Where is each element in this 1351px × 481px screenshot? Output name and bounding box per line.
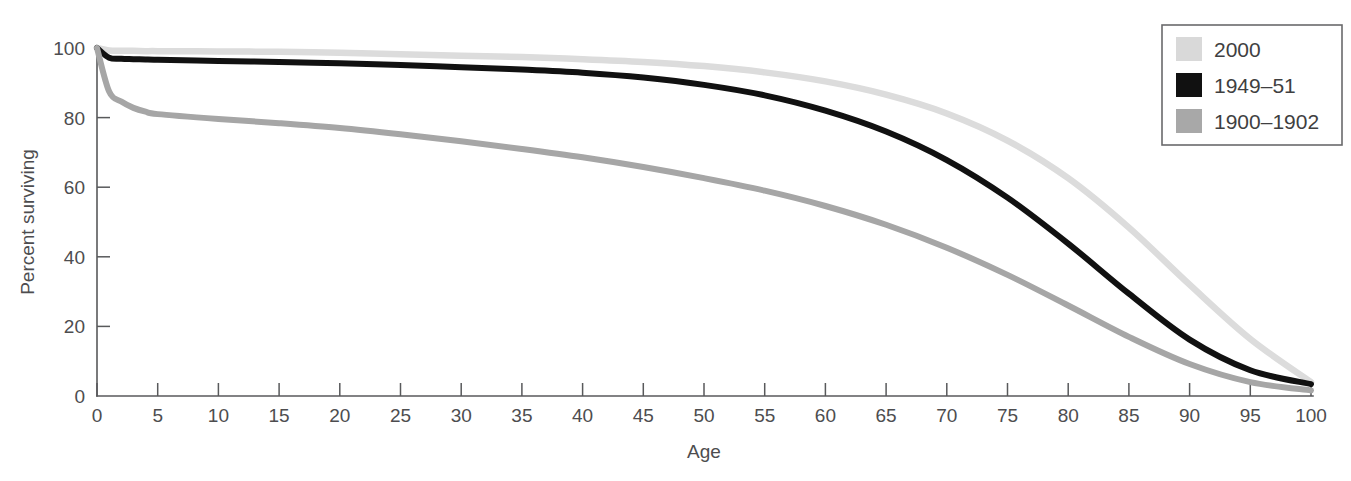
series-line-1900-1902 xyxy=(97,48,1311,390)
y-tick-label-100: 100 xyxy=(53,38,85,59)
x-tick-label-50: 50 xyxy=(693,405,714,426)
y-tick-label-20: 20 xyxy=(64,316,85,337)
x-tick-label-20: 20 xyxy=(329,405,350,426)
legend-label-0: 2000 xyxy=(1214,38,1261,61)
x-tick-label-90: 90 xyxy=(1179,405,1200,426)
data-series-group xyxy=(97,48,1311,390)
legend-swatch-1 xyxy=(1176,73,1202,97)
x-axis-ticks: 0510152025303540455055606570758085909510… xyxy=(92,383,1327,426)
x-tick-label-30: 30 xyxy=(451,405,472,426)
x-tick-label-100: 100 xyxy=(1295,405,1327,426)
series-line-2000 xyxy=(97,48,1311,382)
x-tick-label-5: 5 xyxy=(152,405,163,426)
y-tick-label-60: 60 xyxy=(64,177,85,198)
legend-swatch-0 xyxy=(1176,37,1202,61)
x-tick-label-45: 45 xyxy=(633,405,654,426)
x-tick-label-35: 35 xyxy=(511,405,532,426)
x-tick-label-40: 40 xyxy=(572,405,593,426)
x-tick-label-75: 75 xyxy=(997,405,1018,426)
survival-curve-chart: 020406080100 Percent surviving 051015202… xyxy=(0,0,1351,481)
x-tick-label-0: 0 xyxy=(92,405,103,426)
x-tick-label-15: 15 xyxy=(269,405,290,426)
y-tick-label-40: 40 xyxy=(64,247,85,268)
x-tick-label-85: 85 xyxy=(1118,405,1139,426)
x-tick-label-65: 65 xyxy=(876,405,897,426)
x-tick-label-25: 25 xyxy=(390,405,411,426)
x-tick-label-10: 10 xyxy=(208,405,229,426)
y-axis-title: Percent surviving xyxy=(17,149,38,295)
chart-legend: 20001949–511900–1902 xyxy=(1162,25,1342,145)
x-tick-label-95: 95 xyxy=(1240,405,1261,426)
x-axis-title: Age xyxy=(687,441,721,462)
y-axis-group: 020406080100 Percent surviving xyxy=(17,38,110,407)
x-tick-label-55: 55 xyxy=(754,405,775,426)
legend-label-2: 1900–1902 xyxy=(1214,110,1319,133)
y-axis-ticks: 020406080100 xyxy=(53,38,110,407)
x-tick-label-70: 70 xyxy=(936,405,957,426)
y-tick-label-80: 80 xyxy=(64,108,85,129)
chart-canvas: 020406080100 Percent surviving 051015202… xyxy=(0,0,1351,481)
x-axis-group: 0510152025303540455055606570758085909510… xyxy=(92,383,1327,462)
legend-label-1: 1949–51 xyxy=(1214,74,1296,97)
x-tick-label-80: 80 xyxy=(1058,405,1079,426)
x-tick-label-60: 60 xyxy=(815,405,836,426)
legend-swatch-2 xyxy=(1176,109,1202,133)
y-tick-label-0: 0 xyxy=(74,386,85,407)
